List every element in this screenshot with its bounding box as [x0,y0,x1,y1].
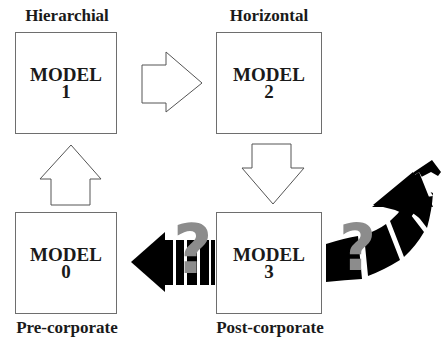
question-mark-icon: ? [339,216,376,280]
model-number: 0 [61,263,71,280]
model-number: 1 [61,83,71,100]
model-1-box: MODEL 1 [15,32,117,134]
question-mark-icon: ? [173,216,212,284]
up-arrow-icon [40,145,101,205]
model-0-box: MODEL 0 [15,212,117,314]
model-2-box: MODEL 2 [216,32,322,134]
model-number: 2 [264,83,274,100]
model-number: 3 [264,263,274,280]
model-3-box: MODEL 3 [216,212,322,314]
right-arrow-icon [142,52,202,112]
down-arrow-icon [242,144,304,204]
